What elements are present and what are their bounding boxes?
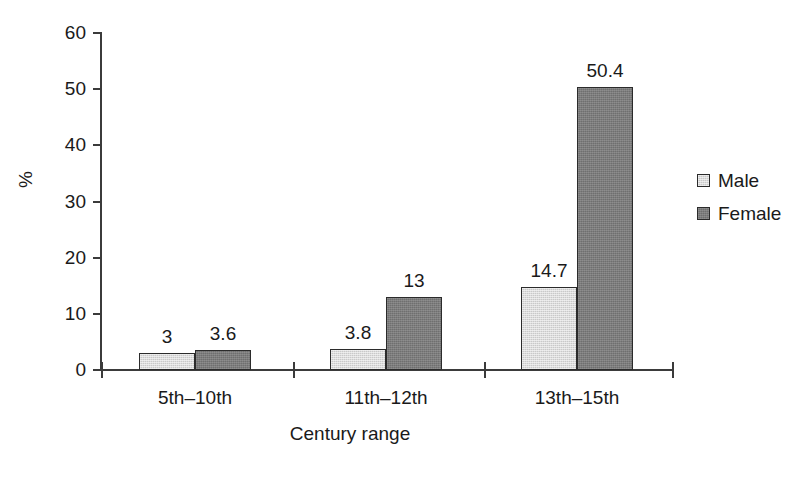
bar-female-0	[195, 350, 251, 370]
bar-female-1	[386, 297, 442, 370]
bar-male-0	[139, 353, 195, 370]
x-category-label: 11th–12th	[300, 388, 472, 407]
legend-label-male: Male	[718, 171, 759, 190]
legend-label-female: Female	[718, 204, 781, 223]
bar-male-1	[330, 349, 386, 370]
bar-value-label: 13	[374, 271, 454, 290]
legend-entry-female[interactable]: Female	[697, 197, 781, 230]
male-swatch-icon	[697, 174, 710, 187]
legend: Male Female	[697, 164, 781, 230]
plot-area: 33.65th–10th3.81311th–12th14.750.413th–1…	[0, 0, 812, 478]
bar-value-label: 50.4	[565, 61, 645, 80]
bar-female-2	[577, 87, 633, 370]
x-category-label: 5th–10th	[109, 388, 281, 407]
x-category-label: 13th–15th	[491, 388, 663, 407]
bar-male-2	[521, 287, 577, 370]
bar-value-label: 3.6	[183, 324, 263, 343]
female-swatch-icon	[697, 207, 710, 220]
bar-chart: 0102030405060 % Century range 33.65th–10…	[0, 0, 812, 478]
legend-entry-male[interactable]: Male	[697, 164, 781, 197]
